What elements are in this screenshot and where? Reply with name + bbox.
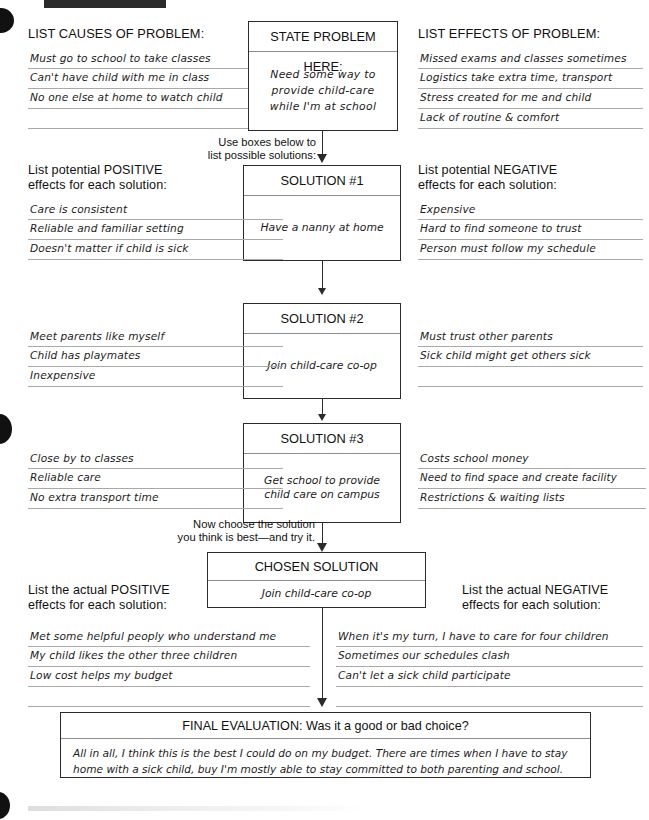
connector-chosen-to-final xyxy=(322,608,323,701)
rule-line xyxy=(28,346,283,347)
list-item: Doesn't matter if child is sick xyxy=(30,243,189,254)
scan-artifact-blob-bottom xyxy=(0,792,10,819)
list-item: My child likes the other three children xyxy=(30,650,237,661)
list-item: Close by to classes xyxy=(30,453,134,464)
list-item: Costs school money xyxy=(420,453,529,464)
rule-line xyxy=(418,508,646,509)
rule-line xyxy=(28,508,283,509)
list-item: Met some helpful peoply who understand m… xyxy=(30,631,276,642)
list-item: Need to find space and create facility xyxy=(420,472,617,483)
rule-line xyxy=(28,386,283,387)
list-item: When it's my turn, I have to care for fo… xyxy=(338,631,609,642)
list-item: Reliable and familiar setting xyxy=(30,223,184,234)
rule-line xyxy=(418,128,643,129)
list-item: Care is consistent xyxy=(30,204,127,215)
chosen-solution-text: Join child-care co-op xyxy=(208,581,425,607)
list-item: Missed exams and classes sometimes xyxy=(420,53,627,64)
list-item: Low cost helps my budget xyxy=(30,670,173,681)
final-evaluation-title: FINAL EVALUATION: Was it a good or bad c… xyxy=(61,713,590,739)
rule-line xyxy=(28,488,283,489)
rule-line xyxy=(28,219,283,220)
scan-artifact-bottom-smudge xyxy=(28,806,368,811)
chosen-positives: Met some helpful peoply who understand m… xyxy=(28,630,310,708)
state-problem-text: Need some way to provide child-care whil… xyxy=(249,52,397,130)
actual-negative-heading: List the actual NEGATIVE effects for eac… xyxy=(462,583,608,613)
rule-line xyxy=(28,666,310,667)
rule-line xyxy=(28,706,310,707)
list-item: Stress created for me and child xyxy=(420,92,591,103)
potential-negative-heading: List potential NEGATIVE effects for each… xyxy=(418,163,557,193)
causes-heading: LIST CAUSES OF PROBLEM: xyxy=(28,26,204,41)
list-item: Sick child might get others sick xyxy=(420,350,591,361)
chosen-negatives: When it's my turn, I have to care for fo… xyxy=(336,630,643,708)
rule-line xyxy=(418,366,643,367)
rule-line xyxy=(28,259,283,260)
list-item: Logistics take extra time, transport xyxy=(420,72,612,83)
rule-line xyxy=(28,108,268,109)
rule-line xyxy=(418,488,646,489)
state-problem-title: STATE PROBLEM HERE: xyxy=(249,22,397,52)
arrow-head-icon xyxy=(318,288,326,295)
solution-1-title: SOLUTION #1 xyxy=(244,166,400,196)
scan-artifact-blob-middle xyxy=(0,414,12,444)
list-item: Can't let a sick child participate xyxy=(338,670,511,681)
potential-positive-heading: List potential POSITIVE effects for each… xyxy=(28,163,167,193)
list-item: Must trust other parents xyxy=(420,331,553,342)
list-item: Can't have child with me in class xyxy=(30,72,209,83)
scan-artifact-top-bar xyxy=(44,0,166,8)
rule-line xyxy=(28,646,310,647)
rule-line xyxy=(418,259,643,260)
list-item: Expensive xyxy=(420,204,476,215)
rule-line xyxy=(28,88,268,89)
rule-line xyxy=(418,346,643,347)
rule-line xyxy=(418,108,643,109)
solution-1-positives: Care is consistent Reliable and familiar… xyxy=(28,203,283,261)
connector-solution1-to-solution2 xyxy=(322,261,323,289)
solution-3-positives: Close by to classes Reliable care No ext… xyxy=(28,452,283,510)
solution-1-negatives: Expensive Hard to find someone to trust … xyxy=(418,203,643,261)
instruction-use-boxes: Use boxes below to list possible solutio… xyxy=(198,136,316,163)
rule-line xyxy=(336,666,643,667)
arrow-head-icon xyxy=(317,698,327,707)
instruction-choose-solution: Now choose the solution you think is bes… xyxy=(160,518,315,545)
state-problem-box: STATE PROBLEM HERE: Need some way to pro… xyxy=(248,21,398,131)
arrow-head-icon xyxy=(317,154,327,163)
list-item: Child has playmates xyxy=(30,350,140,361)
rule-line xyxy=(28,68,268,69)
arrow-head-icon xyxy=(318,414,326,421)
rule-line xyxy=(418,239,643,240)
solution-2-negatives: Must trust other parents Sick child migh… xyxy=(418,330,643,388)
solution-2-positives: Meet parents like myself Child has playm… xyxy=(28,330,283,388)
list-item: Reliable care xyxy=(30,472,101,483)
rule-line xyxy=(28,128,268,129)
scan-artifact-blob-top xyxy=(0,8,14,33)
connector-solution2-to-solution3 xyxy=(322,399,323,415)
connector-problem-to-solution1 xyxy=(322,131,323,156)
solution-3-negatives: Costs school money Need to find space an… xyxy=(418,452,646,510)
list-item: Must go to school to take classes xyxy=(30,53,211,64)
final-evaluation-text: All in all, I think this is the best I c… xyxy=(61,739,590,777)
rule-line xyxy=(418,68,643,69)
list-item: Restrictions & waiting lists xyxy=(420,492,565,503)
actual-positive-heading: List the actual POSITIVE effects for eac… xyxy=(28,583,170,613)
rule-line xyxy=(336,646,643,647)
arrow-head-icon xyxy=(317,543,327,552)
rule-line xyxy=(418,386,643,387)
list-item: No extra transport time xyxy=(30,492,159,503)
solution-3-title: SOLUTION #3 xyxy=(244,424,400,454)
worksheet-page: LIST CAUSES OF PROBLEM: LIST EFFECTS OF … xyxy=(0,0,649,820)
rule-line xyxy=(28,239,283,240)
rule-line xyxy=(28,366,283,367)
chosen-solution-title: CHOSEN SOLUTION xyxy=(208,553,425,581)
rule-line xyxy=(418,219,643,220)
list-item: Meet parents like myself xyxy=(30,331,164,342)
list-item: Person must follow my schedule xyxy=(420,243,596,254)
final-evaluation-box: FINAL EVALUATION: Was it a good or bad c… xyxy=(60,712,591,778)
chosen-solution-box: CHOSEN SOLUTION Join child-care co-op xyxy=(207,552,426,608)
list-item: Sometimes our schedules clash xyxy=(338,650,510,661)
list-item: No one else at home to watch child xyxy=(30,92,223,103)
rule-line xyxy=(418,88,643,89)
rule-line xyxy=(418,468,646,469)
list-item: Hard to find someone to trust xyxy=(420,223,582,234)
rule-line xyxy=(336,686,643,687)
